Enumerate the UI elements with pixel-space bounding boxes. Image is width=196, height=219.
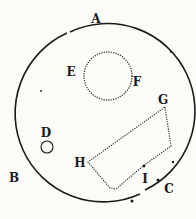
- arrow-mark-c: [157, 179, 160, 182]
- dotted-circle-ef: [84, 52, 132, 100]
- label-b: B: [9, 171, 19, 185]
- label-g: G: [158, 93, 168, 107]
- diagram-canvas: A B C D E F G H I: [0, 0, 196, 219]
- stray-dot: [170, 51, 172, 53]
- label-f: F: [133, 75, 142, 89]
- outer-circle-arc-right: [70, 24, 195, 190]
- stray-dot: [40, 90, 42, 92]
- label-e: E: [66, 65, 75, 79]
- label-d: D: [41, 126, 51, 140]
- arrow-mark-bottom: [131, 200, 134, 203]
- small-circle-d: [41, 141, 53, 153]
- point-i-marker: [143, 165, 146, 168]
- label-i: I: [142, 172, 148, 186]
- dotted-path-ghi: [88, 107, 171, 189]
- arrow-mark-right: [172, 161, 174, 163]
- label-c: C: [164, 182, 174, 196]
- label-a: A: [90, 12, 101, 26]
- outer-circle-arc: [15, 33, 140, 202]
- label-h: H: [74, 156, 85, 170]
